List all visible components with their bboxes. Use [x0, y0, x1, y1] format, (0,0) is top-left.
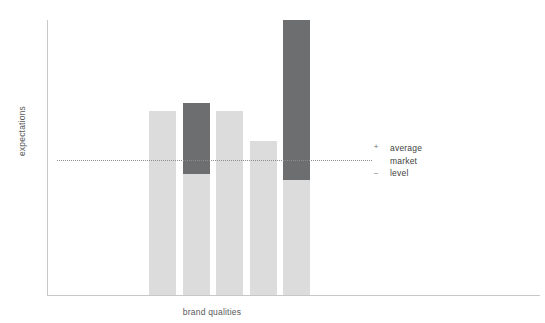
bar-1-base-segment — [149, 111, 176, 295]
bar-2-above-market-segment — [183, 103, 210, 175]
bar-5 — [283, 20, 310, 295]
bar-3-base-segment — [216, 111, 243, 295]
bar-4-base-segment — [250, 141, 277, 295]
bar-1 — [149, 111, 176, 295]
legend-line-1: average — [390, 142, 422, 155]
average-market-level-line — [57, 160, 372, 161]
chart-figure: expectations brand qualities + – average… — [0, 0, 545, 323]
bar-5-above-market-segment — [283, 20, 310, 180]
bar-4 — [250, 141, 277, 295]
bar-2-base-segment — [183, 174, 210, 295]
legend-text: average market level — [390, 142, 422, 180]
legend-line-3: level — [390, 167, 422, 180]
bar-3 — [216, 111, 243, 295]
legend-signs: + – — [369, 142, 383, 182]
legend-line-2: market — [390, 155, 422, 168]
bar-5-base-segment — [283, 180, 310, 296]
minus-sign-icon: – — [369, 169, 383, 177]
bars-plot-area — [0, 0, 545, 323]
plus-sign-icon: + — [369, 143, 383, 151]
bar-2 — [183, 103, 210, 296]
